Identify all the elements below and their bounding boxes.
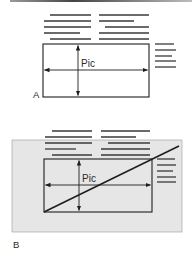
picture-label: Pic — [81, 58, 95, 69]
top-rule — [10, 0, 192, 2]
panel-a: PicA — [33, 15, 176, 100]
picture-label: Pic — [82, 173, 96, 184]
panel-b: PicB — [12, 131, 182, 250]
layout-diagram: PicA PicB — [0, 0, 192, 257]
panel-label: B — [13, 239, 19, 250]
panel-label: A — [33, 89, 40, 100]
picture-box — [43, 44, 149, 97]
